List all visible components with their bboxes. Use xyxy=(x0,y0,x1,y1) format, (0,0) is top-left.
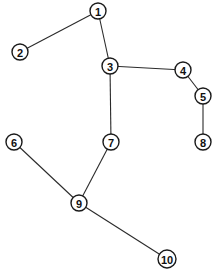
node-8: 8 xyxy=(195,134,211,150)
node-7: 7 xyxy=(103,134,119,150)
node-9: 9 xyxy=(71,195,87,211)
node-label: 1 xyxy=(95,6,101,18)
edge-9-10 xyxy=(79,203,167,259)
edge-7-9 xyxy=(79,142,111,203)
tree-diagram: 12345678910 xyxy=(0,0,219,276)
node-label: 5 xyxy=(200,91,206,103)
edge-6-9 xyxy=(14,142,79,203)
node-label: 6 xyxy=(11,137,17,149)
node-5: 5 xyxy=(195,88,211,104)
node-6: 6 xyxy=(6,134,22,150)
node-10: 10 xyxy=(158,250,176,268)
node-label: 7 xyxy=(108,137,114,149)
node-label: 4 xyxy=(180,65,187,77)
node-label: 2 xyxy=(17,47,23,59)
node-label: 10 xyxy=(161,254,173,266)
node-1: 1 xyxy=(90,3,106,19)
node-3: 3 xyxy=(102,58,118,74)
node-4: 4 xyxy=(175,62,191,78)
node-label: 8 xyxy=(200,137,206,149)
node-2: 2 xyxy=(12,44,28,60)
edge-3-4 xyxy=(110,66,183,70)
node-label: 9 xyxy=(76,198,82,210)
edge-1-2 xyxy=(20,11,98,52)
edge-3-7 xyxy=(110,66,111,142)
node-label: 3 xyxy=(107,61,113,73)
